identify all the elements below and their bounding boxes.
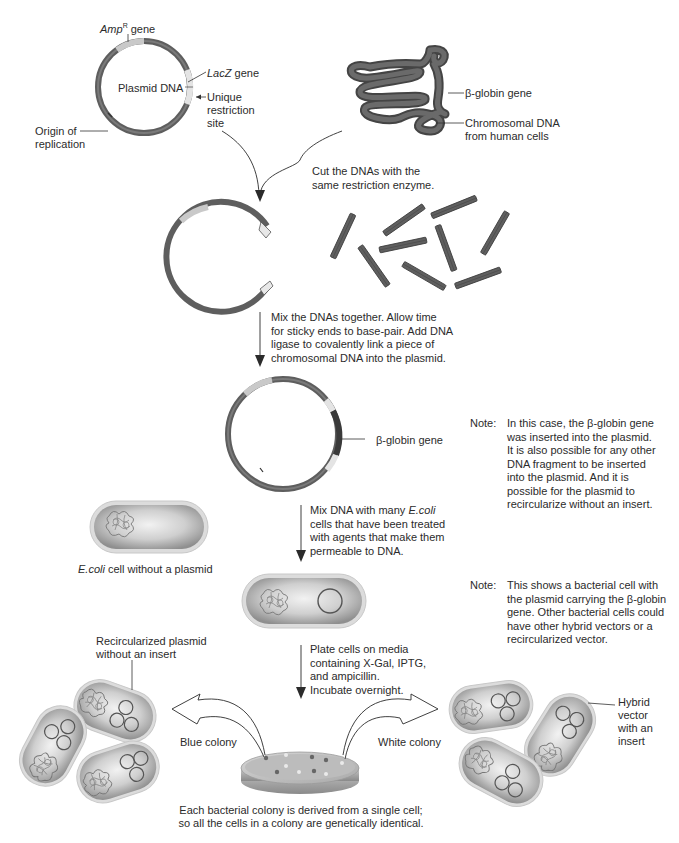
ecoli-cell-no-plasmid bbox=[90, 501, 208, 553]
colony-caption: Each bacterial colony is derived from a … bbox=[160, 804, 442, 830]
chromosome-globin-label: β-globin gene bbox=[465, 87, 532, 100]
ecoli-name: E.coli bbox=[78, 563, 105, 575]
origin-label: Origin of replication bbox=[35, 125, 85, 151]
white-colony-cell-1 bbox=[446, 677, 536, 736]
note-2: Note: This shows a bacterial cell with t… bbox=[470, 579, 679, 649]
blue-colony-cell-3 bbox=[70, 734, 166, 809]
blue-colony-label: Blue colony bbox=[180, 736, 237, 749]
restriction-site-label: Unique restriction site bbox=[207, 91, 255, 130]
petri-dish-icon bbox=[241, 752, 359, 794]
dna-fragments bbox=[330, 195, 509, 290]
note-2-tag: Note: bbox=[470, 579, 496, 593]
step-3-text-b: cells that have been treated with agents… bbox=[310, 518, 445, 557]
hybrid-vector-label: Hybrid vector with an insert bbox=[618, 696, 653, 748]
arrow-head-step4 bbox=[296, 687, 306, 699]
note-1-tag: Note: bbox=[470, 417, 496, 431]
transformed-ecoli-cell bbox=[242, 574, 366, 628]
amp-gene-suffix: gene bbox=[128, 23, 156, 35]
amp-gene-name: Amp bbox=[100, 23, 123, 35]
ecoli-no-plasmid-label: E.coli cell without a plasmid bbox=[78, 563, 213, 576]
white-colony-label: White colony bbox=[378, 736, 441, 749]
step-4-text: Plate cells on media containing X-Gal, I… bbox=[310, 643, 426, 697]
white-colony-arrow bbox=[343, 694, 438, 759]
note-2-text: This shows a bacterial cell with the pla… bbox=[507, 579, 666, 647]
cut-plasmid-diagram bbox=[166, 202, 273, 312]
note-1-text: In this case, the β-globin gene was inse… bbox=[507, 417, 656, 512]
hybrid-globin-label: β-globin gene bbox=[376, 434, 443, 447]
chromosomal-dna-icon bbox=[351, 49, 445, 131]
ecoli-suffix: cell without a plasmid bbox=[105, 563, 213, 575]
lacz-gene-label: LacZ gene bbox=[207, 67, 259, 80]
hybrid-leader bbox=[588, 703, 615, 705]
converge-arrow-left bbox=[222, 131, 259, 195]
step-3-ecoli: E.coli bbox=[408, 504, 435, 516]
step-3-text-a: Mix DNA with many bbox=[310, 504, 408, 516]
plasmid-title: Plasmid DNA bbox=[118, 82, 183, 95]
hybrid-plasmid-diagram bbox=[228, 379, 339, 489]
step-2-text: Mix the DNAs together. Allow time for st… bbox=[271, 311, 453, 365]
note-1: Note: In this case, the β-globin gene wa… bbox=[470, 417, 679, 517]
recircularized-label: Recircularized plasmid without an insert bbox=[96, 635, 207, 661]
lacz-gene-name: LacZ bbox=[207, 67, 231, 79]
step-3-text: Mix DNA with many E.coli cells that have… bbox=[310, 504, 445, 558]
lacz-gene-suffix: gene bbox=[231, 67, 259, 79]
amp-gene-label: AmpR gene bbox=[100, 23, 155, 36]
step-1-text: Cut the DNAs with the same restriction e… bbox=[312, 165, 434, 192]
site-arrow-head bbox=[196, 95, 201, 100]
chromosomal-dna-label: Chromosomal DNA from human cells bbox=[465, 117, 560, 143]
arrow-head-step1 bbox=[255, 190, 265, 202]
arrow-head-step3 bbox=[296, 550, 306, 562]
arrow-head-step2 bbox=[255, 355, 265, 367]
